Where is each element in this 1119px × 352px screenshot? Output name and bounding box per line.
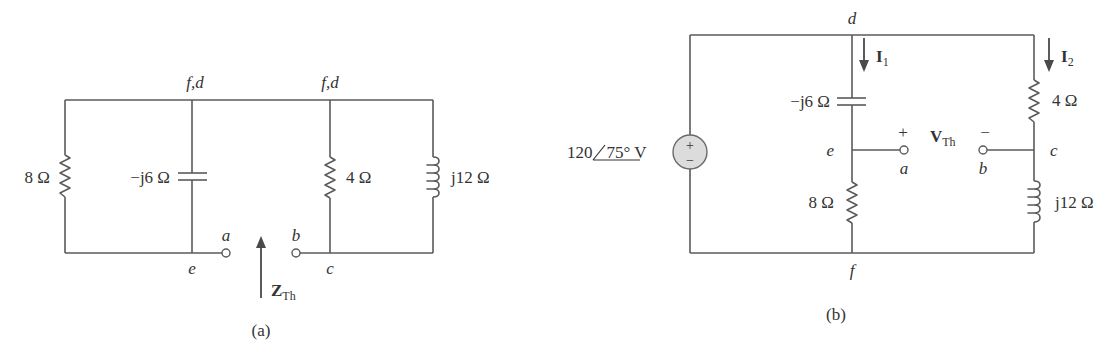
label-neg-j6-ohm: −j6 Ω: [130, 168, 170, 187]
label-j12-ohm: j12 Ω: [1054, 193, 1094, 212]
zth-sub: Th: [282, 289, 295, 303]
zth-label: ZTh: [271, 281, 296, 303]
node-label-d: d: [848, 9, 857, 28]
source-minus-sign: −: [686, 153, 694, 168]
label-4-ohm: 4 Ω: [346, 168, 371, 187]
resistor-4-ohm-icon: [325, 157, 335, 198]
terminal-label-b: b: [292, 226, 301, 245]
source-angle: 75°: [607, 143, 631, 162]
arrowhead-icon: [256, 236, 266, 248]
node-label-fd-right: f,d: [321, 73, 339, 92]
caption-b: (b): [826, 305, 846, 324]
label-4-ohm: 4 Ω: [1052, 91, 1077, 110]
source-label: 12075° V: [567, 143, 647, 162]
terminal-label-a: a: [900, 159, 909, 178]
inductor-icon: [1028, 181, 1040, 222]
terminal-label-a: a: [222, 226, 231, 245]
terminal-label-b: b: [979, 159, 988, 178]
resistor-8-ohm-icon: [847, 182, 857, 223]
label-neg-j6-ohm: −j6 Ω: [790, 92, 830, 111]
label-8-ohm: 8 Ω: [25, 168, 50, 187]
arrowhead-icon: [1044, 60, 1054, 72]
node-label-f: f: [850, 261, 857, 280]
node-label-c: c: [326, 259, 334, 278]
label-j12-ohm: j12 Ω: [450, 168, 490, 187]
zth-main: Z: [271, 281, 282, 300]
vth-plus-sign: +: [898, 123, 908, 142]
terminal-a-icon: [900, 146, 908, 154]
terminal-b-icon: [979, 146, 987, 154]
i1-label: I1: [876, 47, 889, 69]
vth-minus-sign: −: [980, 123, 990, 142]
node-label-e: e: [188, 259, 196, 278]
source-plus-sign: +: [686, 138, 694, 153]
resistor-8-ohm-icon: [60, 155, 70, 197]
i2-label: I2: [1061, 47, 1074, 69]
terminal-a-icon: [222, 249, 230, 257]
node-label-e: e: [826, 141, 834, 160]
arrowhead-icon: [859, 60, 869, 72]
i2-sub: 2: [1068, 55, 1074, 69]
vth-sub: Th: [942, 135, 955, 149]
terminal-b-icon: [292, 249, 300, 257]
inductor-icon: [427, 157, 439, 197]
i1-sub: 1: [883, 55, 889, 69]
node-label-fd-left: f,d: [186, 73, 204, 92]
resistor-4-ohm-icon: [1029, 80, 1039, 122]
circuit-figure: f,d f,d e c a b 8 Ω −j6 Ω 4 Ω j12 Ω ZTh …: [0, 0, 1119, 352]
vth-label: VTh: [930, 127, 956, 149]
circuit-a: f,d f,d e c a b 8 Ω −j6 Ω 4 Ω j12 Ω ZTh …: [25, 73, 490, 340]
node-label-c: c: [1050, 141, 1058, 160]
caption-a: (a): [252, 321, 271, 340]
source-unit: V: [630, 143, 647, 162]
label-8-ohm: 8 Ω: [809, 193, 834, 212]
vth-main: V: [930, 127, 943, 146]
circuit-b: + − d f e c a b −j6 Ω 8 Ω: [567, 9, 1094, 324]
source-magnitude: 120: [567, 143, 593, 162]
